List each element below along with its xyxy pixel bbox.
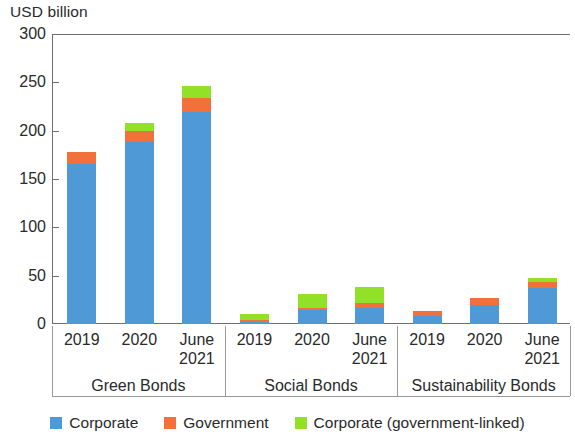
x-axis-category-label: 2020 xyxy=(456,330,514,349)
x-axis-category-line: June xyxy=(180,331,215,348)
bar-segment-corporate xyxy=(182,112,211,324)
legend-swatch-icon xyxy=(164,417,176,429)
legend-item: Corporate (government-linked) xyxy=(295,414,525,432)
bar-segment-corporate-government-linked xyxy=(298,294,327,308)
bar-segment-corporate-government-linked xyxy=(355,287,384,302)
x-axis-group-separator xyxy=(225,326,226,396)
bar-segment-corporate-government-linked xyxy=(182,86,211,98)
x-axis-group-label: Green Bonds xyxy=(52,377,225,395)
legend-label: Corporate (government-linked) xyxy=(314,414,525,432)
x-axis-category-label: 2019 xyxy=(53,330,111,349)
bar-segment-corporate xyxy=(240,322,269,324)
x-axis-band-edge xyxy=(570,326,571,396)
x-axis-band-bottom-rule xyxy=(52,396,570,397)
chart-legend: CorporateGovernmentCorporate (government… xyxy=(0,414,575,432)
legend-swatch-icon xyxy=(50,417,62,429)
bar-segment-corporate xyxy=(67,164,96,324)
x-axis-group-label: Sustainability Bonds xyxy=(397,377,570,395)
bar-segment-government xyxy=(470,298,499,305)
legend-item: Corporate xyxy=(50,414,138,432)
x-axis-category-line: 2020 xyxy=(294,331,330,348)
bar-sustainability-bonds-2020 xyxy=(470,298,499,324)
x-axis-band-edge xyxy=(52,326,53,396)
x-axis-group-separator xyxy=(397,326,398,396)
bar-segment-corporate xyxy=(125,142,154,324)
x-axis-category-line: June xyxy=(525,331,560,348)
bar-segment-corporate-government-linked xyxy=(125,123,154,131)
x-axis-category-label: 2019 xyxy=(398,330,456,349)
x-axis-category-line: 2020 xyxy=(122,331,158,348)
bar-social-bonds-2020 xyxy=(298,294,327,324)
bar-green-bonds-2019 xyxy=(67,152,96,324)
bar-green-bonds-june-2021 xyxy=(182,86,211,324)
bar-segment-government xyxy=(182,98,211,113)
bar-segment-government xyxy=(67,152,96,164)
x-axis-category-line: 2020 xyxy=(467,331,503,348)
legend-label: Government xyxy=(183,414,268,432)
bar-segment-government xyxy=(125,131,154,143)
bars-layer xyxy=(0,0,575,439)
legend-label: Corporate xyxy=(69,414,138,432)
bar-green-bonds-2020 xyxy=(125,123,154,324)
x-axis-category-label: 2020 xyxy=(283,330,341,349)
legend-swatch-icon xyxy=(295,417,307,429)
bar-segment-corporate xyxy=(355,308,384,324)
bar-segment-corporate xyxy=(413,316,442,324)
x-axis-category-label: June2021 xyxy=(513,330,571,368)
x-axis-group-label: Social Bonds xyxy=(225,377,398,395)
x-axis-category-line: 2021 xyxy=(352,350,388,367)
x-axis-category-label: June2021 xyxy=(341,330,399,368)
legend-item: Government xyxy=(164,414,268,432)
x-axis-category-line: June xyxy=(352,331,387,348)
x-axis-category-line: 2021 xyxy=(524,350,560,367)
bar-sustainability-bonds-2019 xyxy=(413,311,442,324)
bar-segment-corporate xyxy=(470,305,499,324)
bar-segment-corporate xyxy=(298,310,327,324)
x-axis-category-line: 2019 xyxy=(409,331,445,348)
x-axis-category-line: 2019 xyxy=(64,331,100,348)
x-axis-category-label: 2019 xyxy=(226,330,284,349)
x-axis-category-label: 2020 xyxy=(111,330,169,349)
x-axis-category-line: 2021 xyxy=(179,350,215,367)
x-axis-category-line: 2019 xyxy=(237,331,273,348)
bar-social-bonds-2019 xyxy=(240,314,269,324)
x-axis-category-label: June2021 xyxy=(168,330,226,368)
bar-sustainability-bonds-june-2021 xyxy=(528,278,557,324)
bar-social-bonds-june-2021 xyxy=(355,287,384,324)
bar-segment-corporate xyxy=(528,288,557,324)
stacked-bar-chart: USD billion 050100150200250300 20192020J… xyxy=(0,0,575,439)
